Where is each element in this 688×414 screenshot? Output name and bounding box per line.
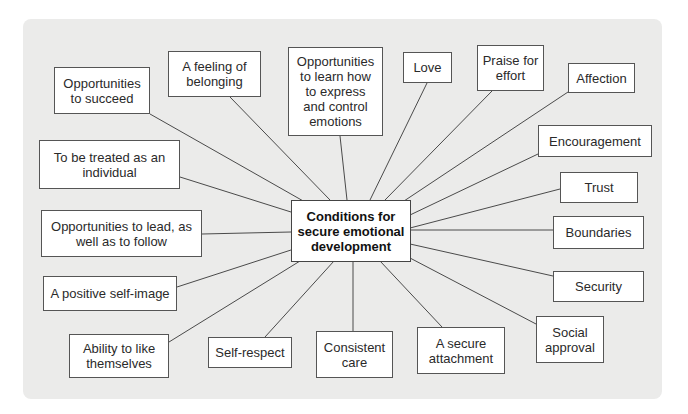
- node-label: Boundaries: [566, 225, 632, 240]
- node-label: Praise for effort: [482, 53, 539, 83]
- node-label: Consistent care: [321, 340, 388, 370]
- node-label: Opportunities to learn how to express an…: [293, 54, 378, 129]
- node-label: To be treated as an individual: [44, 150, 175, 180]
- node-trust: Trust: [560, 172, 638, 203]
- node-label: Security: [575, 279, 622, 294]
- node-feeling-of-belonging: A feeling of belonging: [168, 51, 261, 97]
- node-label: Self-respect: [215, 345, 284, 360]
- node-label: Social approval: [541, 325, 599, 355]
- node-treated-as-individual: To be treated as an individual: [39, 140, 180, 189]
- node-learn-express-control-emotions: Opportunities to learn how to express an…: [288, 47, 383, 136]
- node-self-respect: Self-respect: [208, 337, 292, 368]
- node-boundaries: Boundaries: [553, 216, 644, 249]
- node-label: Opportunities to lead, as well as to fol…: [46, 219, 197, 249]
- node-lead-and-follow: Opportunities to lead, as well as to fol…: [41, 210, 202, 257]
- node-label: Encouragement: [549, 134, 641, 149]
- node-label: Affection: [576, 71, 626, 86]
- node-positive-self-image: A positive self-image: [43, 276, 177, 311]
- central-concept-label: Conditions for secure emotional developm…: [296, 209, 406, 254]
- node-label: Love: [413, 60, 441, 75]
- central-concept-box: Conditions for secure emotional developm…: [291, 200, 411, 262]
- node-praise-for-effort: Praise for effort: [477, 45, 544, 91]
- node-label: A positive self-image: [50, 286, 169, 301]
- node-label: A feeling of belonging: [173, 59, 256, 89]
- node-opportunities-to-succeed: Opportunities to succeed: [54, 67, 150, 114]
- node-consistent-care: Consistent care: [316, 331, 393, 378]
- node-secure-attachment: A secure attachment: [417, 327, 505, 374]
- node-label: Trust: [584, 180, 613, 195]
- node-ability-to-like-themselves: Ability to like themselves: [69, 334, 169, 378]
- node-label: A secure attachment: [422, 336, 500, 366]
- node-label: Ability to like themselves: [74, 341, 164, 371]
- node-security: Security: [553, 271, 644, 302]
- node-label: Opportunities to succeed: [59, 76, 145, 106]
- node-social-approval: Social approval: [536, 316, 604, 363]
- node-encouragement: Encouragement: [538, 125, 652, 157]
- node-love: Love: [403, 52, 452, 83]
- node-affection: Affection: [568, 63, 635, 93]
